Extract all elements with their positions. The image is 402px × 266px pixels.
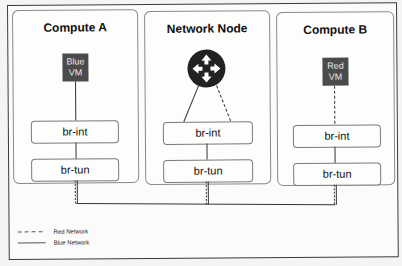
diagram-frame: Compute A Blue VM br-int br-tun Network …	[7, 2, 399, 260]
legend-blue-network: Blue Network	[54, 239, 90, 245]
legend-line-icons	[18, 228, 48, 248]
connection-lines	[8, 3, 398, 259]
legend-red-network: Red Network	[54, 228, 89, 234]
